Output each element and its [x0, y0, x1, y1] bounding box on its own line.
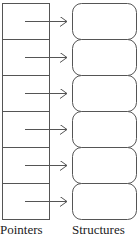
structures-label: Structures: [72, 222, 125, 238]
structure-box: [73, 148, 137, 184]
structure-box: [73, 112, 137, 148]
pointer-array: [3, 4, 50, 220]
pointer-structure-diagram: [0, 0, 138, 239]
structure-box: [73, 40, 137, 76]
pointers-label: Pointers: [0, 222, 43, 238]
structure-box: [73, 76, 137, 112]
structure-boxes: [73, 4, 137, 220]
structure-box: [73, 184, 137, 220]
structure-box: [73, 4, 137, 40]
